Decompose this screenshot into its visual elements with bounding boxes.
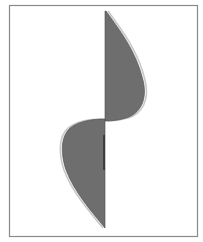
s-curve-diagram xyxy=(0,0,203,242)
figure-canvas xyxy=(0,0,203,242)
